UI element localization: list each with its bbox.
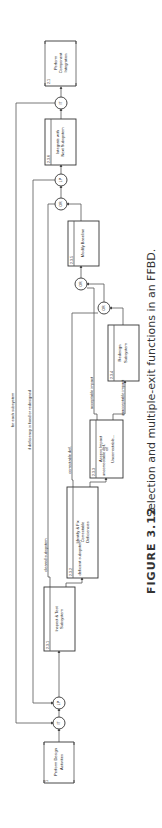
caption-text: Selection and multiple-exit functions in… bbox=[145, 249, 158, 517]
lp-node-end: LP bbox=[55, 174, 67, 186]
function-2-3-3-label-3: Uncorrectable... bbox=[110, 435, 115, 463]
edge-label-acceptable: acceptable impact bbox=[89, 376, 94, 409]
edge-label-deficient: deficient subsystem bbox=[77, 540, 82, 576]
function-1-label-2: Activities bbox=[59, 754, 64, 770]
function-2-1-label-3: Integration bbox=[63, 54, 68, 73]
function-1-label-1: Perform Design bbox=[53, 748, 58, 776]
lp-node-start: LP bbox=[53, 697, 65, 709]
function-1: 1 Perform Design Activities bbox=[44, 742, 74, 783]
function-2-3-4-id: 2.3.4 bbox=[110, 371, 114, 379]
function-2-3-1-label-2: Subsystem bbox=[59, 608, 64, 628]
function-2-3-3: 2.3.3 Assess Impact of Uncorrectable... bbox=[90, 420, 123, 478]
caption-label: FIGURE 3.12 bbox=[145, 506, 158, 594]
function-2-3-2-label-3: Deficiencies bbox=[85, 521, 90, 543]
function-2-3-4: 2.3.4 Redesign Subsystem bbox=[108, 325, 139, 381]
svg-text:LP: LP bbox=[59, 177, 63, 182]
it-node-end: IT bbox=[55, 97, 67, 109]
function-2-3-4-label-1: Redesign bbox=[117, 345, 122, 362]
or-node-outer: OR bbox=[55, 198, 67, 210]
function-2-3-2-id: 2.3.2 bbox=[69, 568, 73, 576]
function-2-1-id: 2.1 bbox=[47, 79, 51, 84]
function-2-3-4-label-2: Subsystem bbox=[123, 342, 128, 362]
edge-label-if-deficiency: if deficiency is fixed or redesigned bbox=[27, 390, 32, 450]
function-2-3-6-label-2: Next Subsystem bbox=[60, 127, 65, 157]
figure-caption: FIGURE 3.12 Selection and multiple-exit … bbox=[145, 249, 158, 594]
edge-label-unacceptable: unacceptable impact bbox=[120, 379, 125, 417]
svg-text:OR: OR bbox=[79, 281, 83, 287]
or-node-middle: OR bbox=[75, 278, 87, 290]
function-2-3-5-id: 2.3.5 bbox=[70, 256, 74, 264]
svg-text:OR: OR bbox=[59, 201, 63, 207]
function-2-3-3-id: 2.3.3 bbox=[92, 468, 96, 476]
it-node-start: IT bbox=[53, 717, 65, 729]
function-2-3-6-id: 2.3.6 bbox=[47, 155, 51, 163]
function-2-1: 2.1 Perform Component Integration bbox=[45, 41, 76, 86]
edge-label-cleared: cleared subsystem bbox=[43, 538, 48, 572]
svg-text:OR: OR bbox=[102, 305, 106, 311]
function-2-3-1: 2.3.1 Inspect & Test Subsystem bbox=[44, 587, 75, 651]
function-2-3-2: 2.3.2 Identify & Fix Correctable Deficie… bbox=[67, 487, 98, 578]
edge-label-uncorrectable: uncorrectable def. bbox=[101, 444, 106, 476]
function-2-3-5: 2.3.5 Modify Baseline bbox=[68, 221, 99, 266]
or-node-inner: OR bbox=[98, 302, 110, 314]
function-2-3-5-label-1: Modify Baseline bbox=[80, 228, 85, 257]
ffbd-diagram: 1 Perform Design Activities 2.3.1 Inspec… bbox=[0, 0, 162, 828]
edge-label-correctable: correctable def. bbox=[67, 446, 72, 474]
function-1-id: 1 bbox=[45, 780, 49, 782]
function-2-3-1-id: 2.3.1 bbox=[46, 641, 50, 649]
svg-text:LP: LP bbox=[57, 700, 61, 705]
edge-label-for-each: for each subsystem bbox=[10, 392, 15, 427]
function-2-3-6: 2.3.6 Integrate with Next Subsystem bbox=[45, 119, 76, 165]
